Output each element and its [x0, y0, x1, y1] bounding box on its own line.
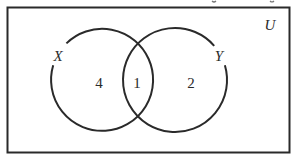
- universe-box: [8, 8, 290, 153]
- cropped-text-fragment: [212, 1, 216, 2]
- region-intersection-count: 1: [133, 76, 141, 91]
- universe-label: U: [265, 18, 276, 33]
- set-y-label: Y: [215, 49, 223, 64]
- region-x-only-count: 4: [95, 76, 103, 91]
- cropped-text-fragment: [270, 1, 274, 2]
- venn-figure: [0, 0, 300, 164]
- set-x-label: X: [53, 49, 62, 64]
- region-y-only-count: 2: [187, 76, 195, 91]
